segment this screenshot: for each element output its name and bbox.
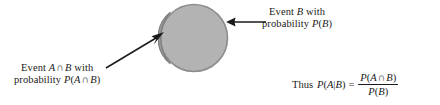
formula-equals: = bbox=[348, 79, 354, 90]
formula-num-close: ) bbox=[393, 72, 397, 83]
label-event-ab-line2: probability P(A∩B) bbox=[14, 74, 100, 86]
label-event-ab-line2-close: ) bbox=[97, 74, 101, 85]
label-event-b-line2-close: ) bbox=[329, 18, 333, 29]
conditional-probability-formula: Thus P(A|B) = P(A∩B) P(B) bbox=[292, 72, 398, 98]
label-event-b-line2-pre: probability bbox=[262, 18, 312, 29]
intersection-symbol: ∩ bbox=[55, 62, 65, 73]
venn-diagram-group bbox=[158, 2, 230, 74]
formula-thus: Thus bbox=[292, 79, 313, 90]
label-event-ab-line1: Event A∩B with bbox=[14, 62, 100, 74]
formula-lhs-close: ) bbox=[342, 79, 346, 90]
intersection-symbol: ∩ bbox=[81, 74, 91, 85]
formula-fraction: P(A∩B) P(B) bbox=[358, 72, 398, 98]
formula-denominator: P(B) bbox=[366, 85, 390, 97]
venn-svg bbox=[158, 2, 230, 74]
label-event-ab-line1-post: with bbox=[72, 62, 94, 73]
conditional-probability-diagram: Event B with probability P(B) Event A∩B … bbox=[0, 0, 440, 105]
label-event-ab-line2-var-a: A bbox=[74, 74, 81, 85]
event-b-circle bbox=[161, 5, 228, 72]
label-event-b: Event B with probability P(B) bbox=[262, 6, 332, 30]
label-event-ab-line2-pre: probability bbox=[14, 74, 64, 85]
label-event-b-line2: probability P(B) bbox=[262, 18, 332, 30]
label-event-b-line1-post: with bbox=[303, 6, 325, 17]
arrow-to-event-a-intersect-b bbox=[104, 28, 166, 70]
label-event-a-intersect-b: Event A∩B with probability P(A∩B) bbox=[14, 62, 100, 86]
formula-den-close: ) bbox=[385, 86, 389, 97]
formula-numerator: P(A∩B) bbox=[358, 72, 398, 84]
label-event-b-line1: Event B with bbox=[262, 6, 332, 18]
intersection-symbol: ∩ bbox=[377, 72, 387, 83]
formula-lhs: P(A|B) bbox=[317, 79, 345, 90]
label-event-b-line1-pre: Event bbox=[269, 6, 297, 17]
label-event-ab-line1-pre: Event bbox=[21, 62, 49, 73]
formula-num-a: A bbox=[370, 72, 376, 83]
